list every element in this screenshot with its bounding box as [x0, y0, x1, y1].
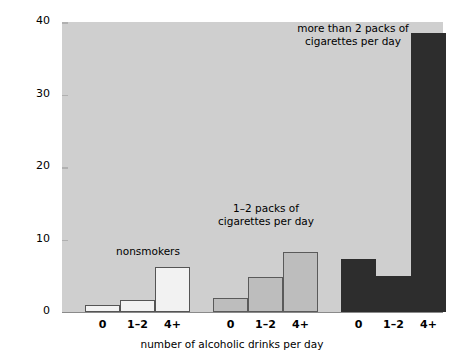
y-tick-label-40: 40 [36, 14, 50, 27]
chart-figure: relative cancer risk 0 10 20 30 40 [0, 0, 464, 364]
x-tick-label-g3-4plus: 4+ [420, 318, 437, 331]
x-tick-label-g2-4plus: 4+ [292, 318, 309, 331]
x-tick-label-g1-0: 0 [99, 318, 107, 331]
plot-area [62, 22, 443, 312]
bar-morethan2packs-1-2 [376, 276, 411, 312]
bar-nonsmokers-1-2 [120, 300, 155, 312]
y-tick-label-20: 20 [36, 159, 50, 172]
gridline-stub-10 [62, 240, 68, 242]
x-tick-label-g2-0: 0 [227, 318, 235, 331]
bar-morethan2packs-4plus [411, 33, 446, 312]
gridline-stub-30 [62, 95, 68, 97]
x-tick-label-g1-4plus: 4+ [164, 318, 181, 331]
x-tick-label-g2-1-2: 1–2 [255, 318, 276, 331]
bar-nonsmokers-4plus [155, 267, 190, 312]
bar-nonsmokers-0 [85, 305, 120, 312]
x-tick-label-g3-1-2: 1–2 [383, 318, 404, 331]
annotation-one-two-packs: 1–2 packs of cigarettes per day [196, 202, 336, 228]
annotation-nonsmokers: nonsmokers [93, 245, 203, 258]
x-tick-label-g3-0: 0 [355, 318, 363, 331]
y-tick-label-0: 0 [43, 304, 50, 317]
x-axis-line [62, 312, 443, 313]
bar-onetwopacks-1-2 [248, 277, 283, 312]
y-tick-label-10: 10 [36, 232, 50, 245]
y-tick-label-30: 30 [36, 87, 50, 100]
bar-onetwopacks-4plus [283, 252, 318, 312]
bar-morethan2packs-0 [341, 259, 376, 312]
bar-onetwopacks-0 [213, 298, 248, 313]
annotation-more-than-two-packs: more than 2 packs of cigarettes per day [278, 22, 428, 48]
gridline-stub-20 [62, 167, 68, 169]
gridline-stub-40 [62, 22, 68, 24]
x-tick-label-g1-1-2: 1–2 [127, 318, 148, 331]
x-axis-title: number of alcoholic drinks per day [0, 338, 464, 350]
